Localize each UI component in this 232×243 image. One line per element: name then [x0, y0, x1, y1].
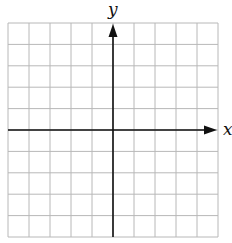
x-axis-label: x [223, 119, 232, 139]
x-axis-arrow-icon [204, 126, 217, 135]
y-axis-label: y [107, 0, 118, 19]
coordinate-plane: x y [0, 0, 232, 243]
y-axis-arrow-icon [109, 24, 118, 37]
axes [8, 24, 217, 237]
